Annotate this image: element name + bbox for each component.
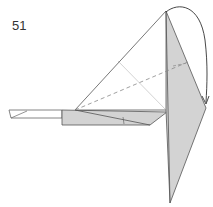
origami-diagram — [0, 0, 213, 207]
model-triangle-white — [75, 11, 166, 110]
horizontal-flap-colored — [62, 110, 167, 125]
vertical-flap-colored — [166, 11, 206, 203]
left-strip-white — [9, 110, 62, 118]
